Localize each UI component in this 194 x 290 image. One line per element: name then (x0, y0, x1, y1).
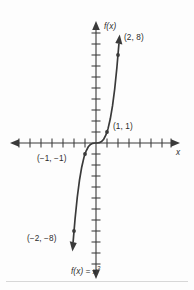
point-label-neg1-neg1: (−1, −1) (37, 155, 66, 163)
x-axis-right-arrowhead (171, 139, 180, 147)
point-marker-2-8 (116, 53, 120, 57)
y-axis (92, 21, 101, 279)
point-marker-1-1 (105, 130, 109, 134)
y-axis-top-arrowhead (92, 21, 100, 30)
cubic-function-figure: f(x) x (2, 8) (1, 1) (−1, −1) (−2, −8) f… (0, 0, 194, 290)
point-marker-neg2-neg8 (72, 229, 76, 233)
curve-bottom-arrowhead (70, 241, 77, 251)
x-axis-label: x (176, 149, 180, 157)
x-axis-left-arrowhead (10, 139, 19, 147)
point-label-neg2-neg8: (−2, −8) (27, 235, 56, 243)
point-marker-neg1-neg1 (83, 152, 87, 156)
function-equation-base: f(x) = x (71, 267, 97, 276)
y-axis-label: f(x) (104, 23, 116, 31)
function-equation-caption: f(x) = x3 (71, 268, 100, 276)
point-label-2-8: (2, 8) (124, 34, 144, 42)
graph-canvas (0, 0, 194, 290)
function-equation-exponent: 3 (97, 265, 100, 271)
curve-top-arrowhead (115, 35, 122, 45)
point-label-1-1: (1, 1) (113, 123, 133, 131)
